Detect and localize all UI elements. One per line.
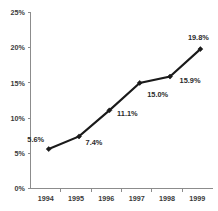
chart-canvas: 0%5%10%15%20%25% 19941995199619971998199… [0,0,218,211]
data-label-group: 5.6%7.4%11.1%15.0%15.9%19.8% [27,33,209,147]
data-point-label: 5.6% [27,135,44,144]
data-point-label: 15.0% [147,90,168,99]
x-tick-label: 1996 [98,194,114,203]
series-marker-group [46,47,203,152]
data-point-label: 15.9% [180,76,201,85]
y-tick-label: 20% [11,43,26,52]
data-point-label: 7.4% [86,138,103,147]
y-tick-label: 10% [11,114,26,123]
y-tick-label: 0% [15,184,26,193]
series-line-path [49,49,201,149]
x-tick-label: 1994 [38,194,54,203]
y-tick-label-group: 0%5%10%15%20%25% [11,8,26,193]
x-tick-label: 1999 [189,194,205,203]
data-point-label: 11.1% [117,109,138,118]
y-tick-label: 5% [15,149,26,158]
x-tick-label: 1998 [159,194,175,203]
x-tick-label: 1997 [129,194,145,203]
x-tick-label: 1995 [68,194,84,203]
y-tick-label: 25% [11,8,26,17]
x-tick-label-group: 199419951996199719981999 [38,194,206,203]
y-axis: 0%5%10%15%20%25% [11,8,31,193]
line-chart: 0%5%10%15%20%25% 19941995199619971998199… [0,0,218,211]
data-series [46,47,203,152]
data-point-label: 19.8% [188,33,209,42]
x-axis: 199419951996199719981999 [31,189,213,203]
y-tick-label: 15% [11,79,26,88]
